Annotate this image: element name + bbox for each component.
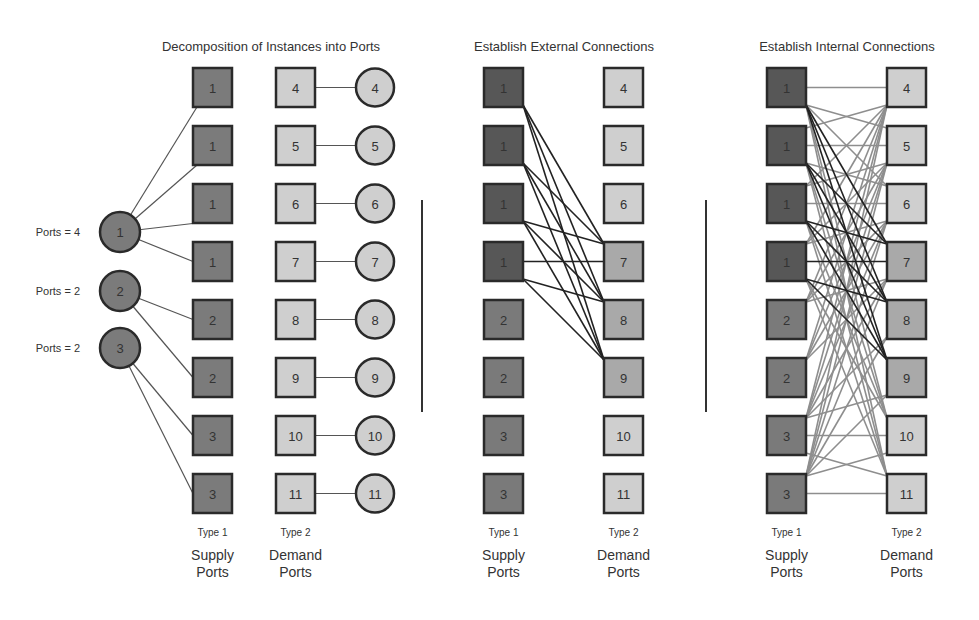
supply-port-label: 3 — [783, 429, 790, 444]
supply-type-label: Type 1 — [197, 527, 227, 538]
demand-port-label: 10 — [899, 429, 913, 444]
supply-port: 1 — [767, 126, 806, 165]
supply-port-label: 2 — [209, 371, 216, 386]
demand-instance-node: 6 — [356, 185, 394, 223]
demand-port: 11 — [604, 474, 643, 513]
supply-port-label: 1 — [500, 81, 507, 96]
demand-port: 8 — [887, 300, 926, 339]
supply-caption: Supply — [191, 547, 234, 563]
supply-port: 2 — [484, 358, 523, 397]
demand-instance-node: 8 — [356, 301, 394, 339]
supply-port: 3 — [484, 416, 523, 455]
supply-type-label: Type 1 — [771, 527, 801, 538]
demand-port: 6 — [276, 184, 315, 223]
demand-type-label: Type 2 — [280, 527, 310, 538]
ports-count-label: Ports = 2 — [36, 285, 80, 297]
demand-port: 8 — [276, 300, 315, 339]
supply-port: 1 — [484, 184, 523, 223]
demand-port-label: 11 — [617, 487, 631, 502]
supply-port-label: 3 — [209, 429, 216, 444]
supply-instance-node-label: 2 — [116, 284, 123, 299]
demand-port-label: 6 — [292, 197, 299, 212]
supply-port: 3 — [767, 474, 806, 513]
supply-port-label: 2 — [500, 313, 507, 328]
demand-caption: Ports — [607, 564, 640, 580]
supply-port: 1 — [193, 126, 232, 165]
demand-type-label: Type 2 — [891, 527, 921, 538]
demand-port-label: 9 — [620, 371, 627, 386]
panel-title-internal: Establish Internal Connections — [759, 39, 935, 54]
demand-port-label: 8 — [292, 313, 299, 328]
supply-port: 1 — [767, 68, 806, 107]
demand-instance-node-label: 10 — [368, 429, 382, 444]
supply-port-label: 2 — [783, 313, 790, 328]
demand-port: 10 — [887, 416, 926, 455]
demand-port-label: 9 — [903, 371, 910, 386]
demand-instance-node: 4 — [356, 69, 394, 107]
demand-port-label: 7 — [903, 255, 910, 270]
supply-port: 1 — [484, 126, 523, 165]
decomposition-edge — [120, 107, 197, 232]
demand-instance-node-label: 8 — [371, 313, 378, 328]
supply-port: 3 — [193, 474, 232, 513]
demand-port-label: 4 — [292, 81, 299, 96]
supply-port-label: 1 — [783, 139, 790, 154]
supply-instance-node-label: 3 — [116, 341, 123, 356]
supply-port: 1 — [767, 184, 806, 223]
demand-port: 11 — [887, 474, 926, 513]
nodes-layer: 1231111223344556677889910101111111122334… — [100, 68, 926, 513]
ports-count-label: Ports = 2 — [36, 342, 80, 354]
demand-port: 5 — [276, 126, 315, 165]
supply-port: 3 — [484, 474, 523, 513]
demand-port: 6 — [887, 184, 926, 223]
demand-port-label: 4 — [620, 81, 627, 96]
supply-instance-node-label: 1 — [116, 225, 123, 240]
demand-instance-node-label: 11 — [368, 487, 382, 502]
panel-title-decomposition: Decomposition of Instances into Ports — [162, 39, 381, 54]
supply-port: 1 — [767, 242, 806, 281]
demand-port: 10 — [276, 416, 315, 455]
demand-port-label: 8 — [620, 313, 627, 328]
supply-instance-node: 3 — [100, 328, 140, 368]
supply-caption: Ports — [770, 564, 803, 580]
demand-port: 9 — [887, 358, 926, 397]
supply-port: 3 — [193, 416, 232, 455]
demand-instance-node: 7 — [356, 243, 394, 281]
supply-port-label: 2 — [500, 371, 507, 386]
demand-port: 10 — [604, 416, 643, 455]
ports-count-label: Ports = 4 — [36, 226, 80, 238]
demand-instance-node-label: 4 — [371, 81, 378, 96]
supply-caption: Supply — [765, 547, 808, 563]
demand-port: 11 — [276, 474, 315, 513]
demand-port-label: 7 — [620, 255, 627, 270]
demand-caption: Demand — [269, 547, 322, 563]
supply-port-label: 1 — [500, 197, 507, 212]
supply-caption: Ports — [487, 564, 520, 580]
demand-port-label: 7 — [292, 255, 299, 270]
demand-instance-node-label: 9 — [371, 371, 378, 386]
supply-port-label: 1 — [209, 139, 216, 154]
supply-port: 1 — [193, 184, 232, 223]
demand-port: 7 — [276, 242, 315, 281]
demand-instance-node: 9 — [356, 359, 394, 397]
supply-port: 2 — [484, 300, 523, 339]
demand-port-label: 5 — [620, 139, 627, 154]
supply-port-label: 1 — [209, 255, 216, 270]
supply-port-label: 3 — [500, 487, 507, 502]
demand-instance-node-label: 7 — [371, 255, 378, 270]
demand-port-label: 4 — [903, 81, 910, 96]
supply-port-label: 1 — [783, 255, 790, 270]
panel-title-external: Establish External Connections — [474, 39, 654, 54]
supply-port: 1 — [193, 242, 232, 281]
demand-port: 9 — [604, 358, 643, 397]
supply-port: 2 — [193, 358, 232, 397]
demand-port: 7 — [604, 242, 643, 281]
demand-instance-node: 10 — [356, 417, 394, 455]
demand-port: 6 — [604, 184, 643, 223]
supply-port: 2 — [767, 300, 806, 339]
supply-port-label: 1 — [209, 197, 216, 212]
demand-instance-node: 5 — [356, 127, 394, 165]
demand-port-label: 9 — [292, 371, 299, 386]
supply-port-label: 1 — [783, 197, 790, 212]
supply-port: 1 — [484, 68, 523, 107]
